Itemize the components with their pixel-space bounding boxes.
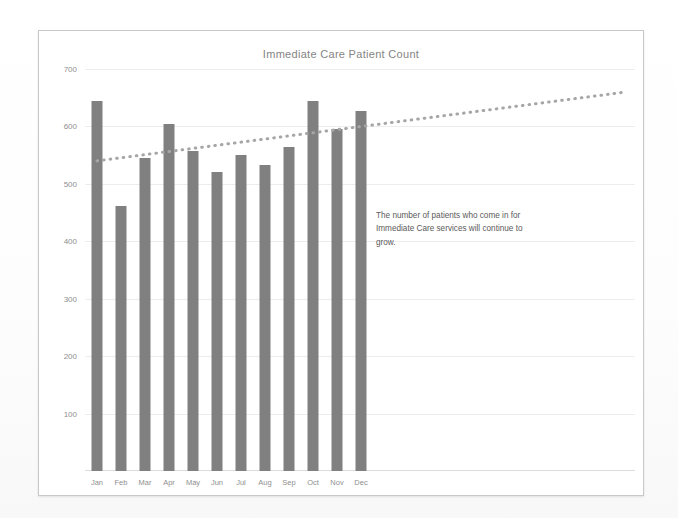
bar: [284, 147, 295, 471]
bar: [236, 155, 247, 471]
bar-group: Mar: [133, 69, 157, 471]
bar: [356, 111, 367, 471]
x-axis-tick-label: Feb: [115, 478, 128, 487]
x-axis-tick-label: Dec: [354, 478, 367, 487]
y-axis-tick-label: 300: [64, 294, 77, 303]
x-axis-tick-label: Oct: [307, 478, 319, 487]
bar-group: Jan: [85, 69, 109, 471]
bar-group: Dec: [349, 69, 373, 471]
bar-series: JanFebMarAprMayJunJulAugSepOctNovDec: [85, 69, 375, 471]
plot-area: 100200300400500600700 JanFebMarAprMayJun…: [85, 69, 635, 471]
bar-group: Aug: [253, 69, 277, 471]
y-axis-tick-label: 500: [64, 179, 77, 188]
x-axis-tick-label: Sep: [282, 478, 295, 487]
x-axis-tick-label: Jun: [211, 478, 223, 487]
x-axis-tick-label: Apr: [163, 478, 175, 487]
x-axis-tick-label: Aug: [258, 478, 271, 487]
bar-group: Oct: [301, 69, 325, 471]
bar: [164, 124, 175, 471]
x-axis-tick-label: Jul: [236, 478, 246, 487]
x-axis-tick-label: May: [186, 478, 200, 487]
x-axis-tick-label: Jan: [91, 478, 103, 487]
x-axis-tick-label: Nov: [330, 478, 343, 487]
bar: [116, 206, 127, 471]
y-axis-tick-label: 700: [64, 65, 77, 74]
y-axis-tick-label: 100: [64, 409, 77, 418]
bar-group: Apr: [157, 69, 181, 471]
bar-group: Sep: [277, 69, 301, 471]
bar: [188, 151, 199, 471]
y-axis-tick-label: 200: [64, 352, 77, 361]
chart-annotation: The number of patients who come in for I…: [376, 209, 536, 249]
bar: [212, 172, 223, 471]
y-axis-tick-label: 400: [64, 237, 77, 246]
bar-group: May: [181, 69, 205, 471]
bar-group: Nov: [325, 69, 349, 471]
bar-group: Jun: [205, 69, 229, 471]
chart-title: Immediate Care Patient Count: [39, 48, 643, 60]
bar-group: Feb: [109, 69, 133, 471]
bar: [332, 129, 343, 471]
bar: [92, 101, 103, 471]
bar: [260, 165, 271, 471]
chart-frame: Immediate Care Patient Count 10020030040…: [38, 30, 644, 496]
x-axis-tick-label: Mar: [139, 478, 152, 487]
bar: [308, 101, 319, 471]
bar: [140, 158, 151, 471]
bar-group: Jul: [229, 69, 253, 471]
y-axis-tick-label: 600: [64, 122, 77, 131]
